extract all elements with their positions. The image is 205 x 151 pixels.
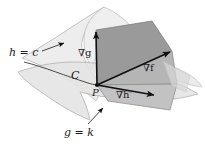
label-surface-h: h = c — [9, 47, 38, 58]
label-point-P: P — [92, 88, 99, 98]
label-grad-h: ∇h — [116, 90, 129, 100]
label-curve-C: C — [71, 70, 79, 81]
diagram-canvas — [0, 0, 205, 151]
leader-line-g-equals-k — [88, 108, 103, 124]
figure-lagrange-multipliers: h = c g = k C P ∇g ∇f ∇h — [0, 0, 205, 151]
label-grad-g: ∇g — [78, 48, 91, 58]
label-surface-g: g = k — [64, 127, 94, 138]
vector-grad-g — [96, 32, 97, 85]
label-grad-f: ∇f — [143, 63, 154, 73]
